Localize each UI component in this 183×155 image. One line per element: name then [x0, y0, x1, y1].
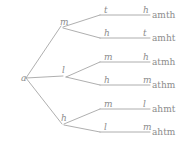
node-level3-1: h — [143, 6, 149, 15]
tree-edge-h-to-l — [64, 125, 100, 132]
leaf-label-4: athm — [152, 81, 175, 90]
leaf-label-3: atmh — [152, 58, 175, 67]
node-level2-2: h — [104, 29, 110, 38]
tree-edge-l-to-m — [66, 62, 100, 77]
node-level2-5: m — [104, 100, 113, 109]
node-level2-1: t — [104, 6, 108, 15]
permutation-tree-diagram: a m l h t h m h m l h t h m l m amth amh… — [0, 0, 183, 155]
node-level3-5: l — [143, 100, 146, 109]
tree-edge-l-to-h — [66, 77, 100, 85]
node-root: a — [21, 74, 26, 83]
node-level2-3: m — [104, 53, 113, 62]
node-level3-2: t — [143, 29, 147, 38]
leaf-label-2: amht — [152, 34, 175, 43]
tree-edge-root-to-h — [26, 78, 62, 124]
leaf-label-5: ahmt — [152, 105, 175, 114]
tree-edge-root-to-m — [26, 26, 61, 78]
node-level1-m: m — [60, 18, 69, 27]
leaf-label-1: amth — [152, 11, 175, 20]
node-level2-6: l — [104, 123, 107, 132]
node-level1-h: h — [61, 114, 67, 123]
node-level3-3: h — [143, 53, 149, 62]
node-level2-4: h — [104, 76, 110, 85]
node-level1-l: l — [62, 66, 65, 75]
tree-edge-m-to-h — [63, 28, 100, 38]
node-level3-6: m — [143, 123, 152, 132]
leaf-label-6: ahtm — [152, 128, 175, 137]
tree-edge-m-to-t — [63, 15, 100, 27]
tree-edge-h-to-m — [64, 109, 100, 124]
tree-edge-root-to-l — [26, 76, 63, 78]
node-level3-4: m — [143, 76, 152, 85]
